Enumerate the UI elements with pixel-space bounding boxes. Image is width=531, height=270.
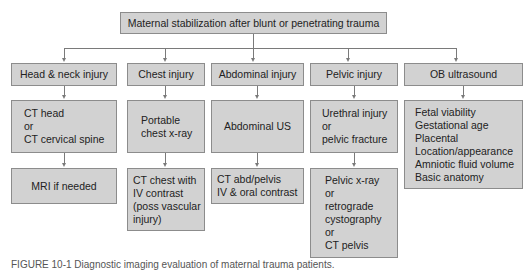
step-pelvic-imaging: Pelvic x-ray or retrograde cystography o… [310, 168, 398, 258]
category-pelvic: Pelvic injury [310, 63, 398, 86]
step-abdominal-us: Abdominal US [211, 100, 304, 153]
step-label: CT chest with IV contrast (poss vascular… [133, 174, 201, 226]
category-label: OB ultrasound [430, 68, 497, 81]
step-portable-chest-xray: Portable chest x-ray [127, 100, 205, 153]
figure-caption: FIGURE 10-1 Diagnostic imaging evaluatio… [11, 259, 335, 270]
step-label: CT head or CT cervical spine [24, 107, 104, 146]
arrow-down-icon [62, 95, 66, 99]
step-label: CT abd/pelvis IV & oral contrast [217, 173, 298, 199]
arrow-down-icon [454, 58, 458, 62]
step-label: Portable chest x-ray [141, 114, 192, 140]
category-label: Chest injury [138, 68, 193, 81]
category-ob-ultrasound: OB ultrasound [404, 63, 523, 86]
root-node: Maternal stabilization after blunt or pe… [120, 12, 387, 34]
category-abdominal: Abdominal injury [211, 63, 304, 86]
arrow-down-icon [163, 95, 167, 99]
step-mri: MRI if needed [11, 168, 117, 204]
step-label: Abdominal US [224, 120, 291, 133]
arrow-down-icon [255, 163, 259, 167]
category-label: Head & neck injury [20, 68, 108, 81]
step-ct-abd-pelvis: CT abd/pelvis IV & oral contrast [211, 168, 304, 204]
step-label: Pelvic x-ray or retrograde cystography o… [325, 174, 382, 252]
arrow-down-icon [62, 58, 66, 62]
arrow-down-icon [352, 95, 356, 99]
arrow-down-icon [461, 95, 465, 99]
arrow-down-icon [346, 58, 350, 62]
step-ob-findings: Fetal viability Gestational age Placenta… [404, 100, 523, 189]
arrow-down-icon [163, 58, 167, 62]
arrow-down-icon [251, 58, 255, 62]
step-label: Urethral injury or pelvic fracture [322, 107, 387, 146]
arrow-down-icon [62, 163, 66, 167]
step-urethral-pelvic: Urethral injury or pelvic fracture [310, 100, 398, 153]
arrow-down-icon [163, 163, 167, 167]
step-ct-chest: CT chest with IV contrast (poss vascular… [127, 168, 205, 231]
arrow-down-icon [352, 163, 356, 167]
arrow-down-icon [255, 95, 259, 99]
step-label: Fetal viability Gestational age Placenta… [415, 106, 514, 184]
root-stem [253, 34, 254, 48]
category-chest: Chest injury [127, 63, 205, 86]
category-label: Abdominal injury [219, 68, 297, 81]
category-label: Pelvic injury [326, 68, 382, 81]
step-label: MRI if needed [31, 180, 96, 193]
branch-bar [64, 48, 457, 49]
category-head-neck: Head & neck injury [11, 63, 117, 86]
root-label: Maternal stabilization after blunt or pe… [128, 17, 380, 30]
step-ct-head-spine: CT head or CT cervical spine [11, 100, 117, 153]
